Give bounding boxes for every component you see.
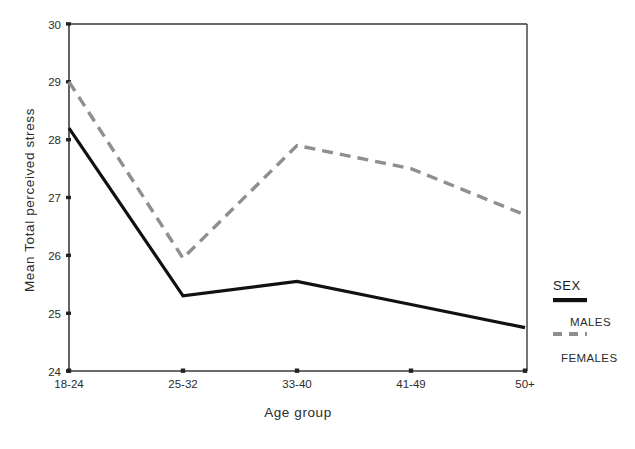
- legend-label-females: FEMALES: [561, 352, 617, 364]
- series-line-males: [69, 128, 525, 328]
- legend-label-males: MALES: [570, 316, 611, 328]
- x-tick-label: 18-24: [54, 378, 84, 390]
- x-tick-label: 33-40: [282, 378, 311, 390]
- x-tick-label: 50+: [515, 378, 535, 390]
- y-tick-label: 28: [48, 134, 61, 146]
- series-line-females: [69, 82, 525, 258]
- y-tick-label: 26: [48, 250, 61, 262]
- y-tick-label: 25: [48, 308, 61, 320]
- x-tick-label: 41-49: [396, 378, 425, 390]
- legend-swatch-males: [553, 298, 587, 302]
- y-tick-label: 29: [48, 76, 61, 88]
- y-tick-label: 27: [48, 192, 61, 204]
- y-axis-title: Mean Total perceived stress: [22, 108, 37, 292]
- x-axis-tick-labels: 18-24 25-32 33-40 41-49 50+: [54, 378, 535, 390]
- x-tick-label: 25-32: [168, 378, 197, 390]
- y-tick-label: 24: [48, 366, 61, 378]
- plot-frame: [69, 24, 527, 371]
- line-chart: 30 29 28 27 26 25 24 18-24 25-32 33-40 4…: [0, 0, 635, 449]
- y-axis-tick-labels: 30 29 28 27 26 25 24: [48, 19, 61, 378]
- legend: SEX MALES FEMALES: [553, 278, 617, 364]
- x-axis-title: Age group: [264, 405, 332, 420]
- y-tick-label: 30: [48, 19, 61, 31]
- chart-container: 30 29 28 27 26 25 24 18-24 25-32 33-40 4…: [0, 0, 635, 449]
- legend-title: SEX: [553, 278, 581, 293]
